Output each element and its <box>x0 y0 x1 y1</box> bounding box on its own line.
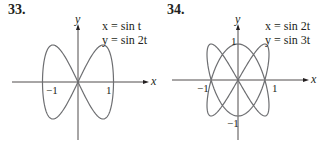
x-equation: x = sin 2t <box>265 19 310 33</box>
x-arrow-icon <box>303 78 309 82</box>
x-axis-label: x <box>311 72 316 87</box>
equations: x = sin t y = sin 2t <box>102 19 147 47</box>
x-axis-label: x <box>151 74 156 89</box>
tick-label-x-neg: −1 <box>46 84 58 96</box>
x-equation: x = sin t <box>102 19 147 33</box>
y-equation: y = sin 3t <box>265 33 310 47</box>
y-axis-label: y <box>235 12 240 27</box>
tick-label-x-pos: 1 <box>106 84 112 96</box>
tick-label-x-neg: −1 <box>197 82 209 94</box>
figure-33: 33. y x x = sin t y = sin 2t −1 1 <box>0 0 161 149</box>
y-axis-label: y <box>75 12 80 27</box>
y-equation: y = sin 2t <box>102 33 147 47</box>
tick-label-y-neg: −1 <box>227 117 239 129</box>
tick-label-y-pos: 1 <box>231 35 237 47</box>
x-arrow-icon <box>143 80 149 84</box>
tick-label-x-pos: 1 <box>272 82 278 94</box>
equations: x = sin 2t y = sin 3t <box>265 19 310 47</box>
figure-34: 34. y x x = sin 2t y = sin 3t −1 1 1 −1 <box>161 0 322 149</box>
